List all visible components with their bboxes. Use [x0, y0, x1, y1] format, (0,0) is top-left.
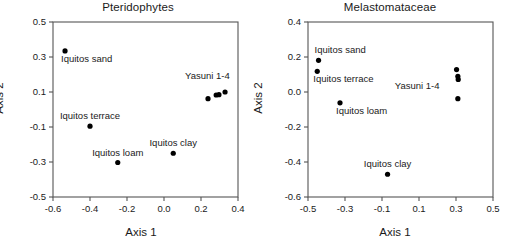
cluster-label: Yasuni 1-4	[185, 70, 230, 81]
y-tick-label: 0.0	[288, 86, 301, 97]
data-point	[205, 96, 210, 101]
x-axis-title: Axis 1	[13, 226, 269, 238]
point-label: Iquitos sand	[315, 44, 366, 55]
point-label: Iquitos sand	[61, 53, 112, 64]
x-tick-label: -0.3	[337, 203, 353, 214]
point-label: Iquitos clay	[149, 137, 197, 148]
figure-two-panel-ordination: Pteridophytes -0.6-0.4-0.20.00.20.40.50.…	[0, 0, 512, 240]
data-point	[385, 172, 390, 177]
point-label: Iquitos clay	[364, 158, 412, 169]
data-point	[171, 151, 176, 156]
data-point	[216, 92, 221, 97]
y-tick-label: 0.5	[33, 16, 46, 27]
x-tick-label: 0.4	[231, 203, 244, 214]
x-tick-label: 0.3	[449, 203, 462, 214]
scatter-plot-melastomataceae: -0.5-0.3-0.10.10.30.50.40.20.0-0.2-0.4-0…	[256, 0, 512, 240]
panel-pteridophytes: Pteridophytes -0.6-0.4-0.20.00.20.40.50.…	[0, 0, 256, 240]
y-tick-label: -0.2	[285, 121, 301, 132]
data-point	[115, 160, 120, 165]
x-tick-label: -0.1	[374, 203, 390, 214]
scatter-plot-pteridophytes: -0.6-0.4-0.20.00.20.40.50.30.1-0.1-0.3-0…	[0, 0, 256, 240]
data-point	[87, 124, 92, 129]
x-tick-label: 0.2	[194, 203, 207, 214]
x-tick-label: -0.2	[119, 203, 135, 214]
y-tick-label: 0.2	[288, 51, 301, 62]
data-point	[316, 58, 321, 63]
x-tick-label: -0.4	[82, 203, 98, 214]
data-point	[222, 89, 227, 94]
y-tick-label: 0.3	[33, 51, 46, 62]
y-axis-title: Axis 2	[252, 82, 264, 113]
data-point	[456, 77, 461, 82]
x-tick-label: 0.1	[412, 203, 425, 214]
point-label: Iquitos loam	[336, 105, 387, 116]
data-point	[454, 67, 459, 72]
cluster-label: Yasuni 1-4	[395, 80, 440, 91]
y-tick-label: -0.6	[285, 191, 301, 202]
x-axis-title: Axis 1	[267, 226, 512, 238]
x-tick-label: -0.5	[300, 203, 316, 214]
y-tick-label: 0.1	[33, 86, 46, 97]
x-tick-label: 0.5	[486, 203, 499, 214]
y-tick-label: -0.5	[30, 191, 46, 202]
y-tick-label: 0.4	[288, 16, 301, 27]
y-axis-title: Axis 2	[0, 82, 5, 113]
x-tick-label: 0.0	[157, 203, 170, 214]
y-tick-label: -0.3	[30, 156, 46, 167]
point-label: Iquitos terrace	[313, 73, 373, 84]
y-tick-label: -0.1	[30, 121, 46, 132]
data-point	[455, 96, 460, 101]
panel-melastomataceae: Melastomataceae -0.5-0.3-0.10.10.30.50.4…	[256, 0, 512, 240]
point-label: Iquitos loam	[92, 147, 143, 158]
x-tick-label: -0.6	[45, 203, 61, 214]
point-label: Iquitos terrace	[60, 110, 120, 121]
y-tick-label: -0.4	[285, 156, 301, 167]
